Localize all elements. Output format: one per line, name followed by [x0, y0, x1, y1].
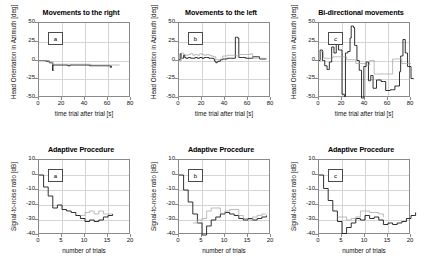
plot-axes: c — [318, 159, 410, 234]
y-tick-label: -20 — [16, 200, 35, 206]
y-tick-mark — [315, 189, 318, 190]
y-tick-mark — [315, 60, 318, 61]
y-tick-label: 25 — [156, 37, 175, 43]
x-tick-label: 5 — [331, 237, 351, 243]
y-tick-label: -30 — [16, 215, 35, 221]
plot-title: Adaptive Procedure — [20, 145, 142, 154]
x-tick-mark — [201, 97, 202, 100]
x-tick-mark — [38, 97, 39, 100]
y-axis-label: Signal-to-noise ratio [dB] — [10, 157, 17, 236]
x-tick-label: 80 — [400, 100, 420, 106]
panel-letter-badge: b — [188, 169, 203, 182]
data-series-snr-black — [319, 175, 416, 234]
x-tick-mark — [84, 234, 85, 237]
x-tick-mark — [84, 97, 85, 100]
x-tick-mark — [387, 234, 388, 237]
plot-panel-top-a: Movements to the righta-50-2502550020406… — [0, 0, 144, 137]
y-tick-label: -10 — [156, 185, 175, 191]
y-tick-mark — [315, 159, 318, 160]
y-tick-mark — [315, 22, 318, 23]
y-tick-label: -20 — [296, 200, 315, 206]
y-tick-label: 25 — [16, 37, 35, 43]
panel-letter-badge: a — [48, 169, 63, 182]
x-tick-mark — [107, 97, 108, 100]
plot-axes: b — [178, 159, 270, 234]
x-tick-mark — [224, 97, 225, 100]
figure-container: Movements to the righta-50-2502550020406… — [0, 0, 424, 274]
x-tick-mark — [130, 234, 131, 237]
plot-panel-top-c: Bi-directional movementsc-50-25025500204… — [280, 0, 424, 137]
x-axis-label: number of trials — [18, 247, 150, 254]
y-tick-mark — [175, 189, 178, 190]
x-tick-label: 10 — [74, 237, 94, 243]
plot-title: Adaptive Procedure — [160, 145, 282, 154]
y-tick-label: -50 — [156, 93, 175, 99]
x-tick-label: 60 — [237, 100, 257, 106]
y-tick-label: 50 — [296, 18, 315, 24]
x-tick-label: 5 — [51, 237, 71, 243]
plot-title: Movements to the left — [160, 8, 282, 17]
x-tick-mark — [38, 234, 39, 237]
y-tick-mark — [35, 78, 38, 79]
x-tick-label: 0 — [28, 100, 48, 106]
x-tick-label: 60 — [377, 100, 397, 106]
x-tick-label: 20 — [120, 237, 140, 243]
y-tick-mark — [35, 189, 38, 190]
x-tick-label: 0 — [168, 100, 188, 106]
x-tick-label: 0 — [28, 237, 48, 243]
y-tick-label: 10 — [296, 155, 315, 161]
x-tick-mark — [130, 97, 131, 100]
y-tick-mark — [175, 78, 178, 79]
y-axis-label: Signal-to-noise ratio [dB] — [290, 157, 297, 236]
x-tick-label: 5 — [191, 237, 211, 243]
y-tick-label: 0 — [296, 170, 315, 176]
y-tick-mark — [175, 219, 178, 220]
y-tick-mark — [315, 219, 318, 220]
data-series-head-orientation-gray — [319, 52, 411, 75]
x-tick-label: 40 — [214, 100, 234, 106]
plot-panel-bottom-b: Adaptive Procedureb-40-30-20-10010051015… — [140, 137, 284, 274]
x-tick-mark — [270, 234, 271, 237]
data-series-snr-gray — [193, 208, 267, 223]
data-series-snr-black — [179, 175, 266, 235]
x-tick-label: 40 — [74, 100, 94, 106]
y-tick-mark — [175, 60, 178, 61]
y-axis-label: Signal-to-noise ratio [dB] — [150, 157, 157, 236]
y-tick-mark — [175, 41, 178, 42]
plot-axes: c — [318, 22, 410, 97]
x-tick-mark — [247, 234, 248, 237]
plot-title: Adaptive Procedure — [300, 145, 422, 154]
x-tick-label: 10 — [214, 237, 234, 243]
x-tick-mark — [364, 234, 365, 237]
y-axis-label: Head Orientation in Azimuth [deg] — [10, 20, 17, 99]
y-tick-mark — [35, 22, 38, 23]
x-tick-label: 20 — [51, 100, 71, 106]
panel-letter-badge: c — [328, 169, 343, 182]
x-axis-label: number of trials — [298, 247, 424, 254]
y-tick-mark — [35, 60, 38, 61]
panel-letter-badge: c — [328, 32, 343, 45]
x-tick-label: 80 — [120, 100, 140, 106]
x-tick-label: 80 — [260, 100, 280, 106]
y-tick-mark — [35, 204, 38, 205]
y-tick-mark — [175, 204, 178, 205]
y-tick-label: 0 — [16, 170, 35, 176]
x-tick-mark — [224, 234, 225, 237]
y-tick-label: 10 — [156, 155, 175, 161]
y-tick-mark — [175, 174, 178, 175]
y-tick-label: -50 — [296, 93, 315, 99]
y-tick-label: 50 — [156, 18, 175, 24]
x-tick-mark — [341, 97, 342, 100]
x-tick-label: 0 — [308, 237, 328, 243]
x-tick-label: 15 — [377, 237, 397, 243]
y-tick-mark — [35, 41, 38, 42]
x-tick-mark — [270, 97, 271, 100]
x-tick-mark — [341, 234, 342, 237]
y-tick-label: -40 — [296, 230, 315, 236]
x-tick-label: 20 — [260, 237, 280, 243]
x-tick-mark — [178, 97, 179, 100]
x-tick-label: 0 — [308, 100, 328, 106]
y-tick-label: -10 — [16, 185, 35, 191]
y-tick-mark — [315, 41, 318, 42]
x-tick-mark — [410, 97, 411, 100]
